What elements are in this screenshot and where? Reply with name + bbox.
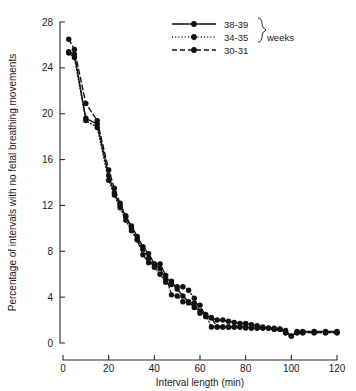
data-point bbox=[220, 324, 225, 329]
series-line-30-31 bbox=[69, 39, 337, 336]
data-point bbox=[226, 324, 231, 329]
data-point bbox=[209, 315, 214, 320]
data-point bbox=[83, 101, 88, 106]
data-point bbox=[106, 167, 111, 172]
data-point bbox=[180, 284, 185, 289]
x-tick-label-120: 120 bbox=[329, 363, 346, 374]
series-line-34-35 bbox=[69, 53, 337, 336]
line-chart: 0481216202428Percentage of intervals wit… bbox=[0, 0, 356, 391]
legend-label-30-31: 30-31 bbox=[224, 45, 248, 56]
data-point bbox=[117, 200, 122, 205]
data-point bbox=[146, 260, 151, 265]
data-point bbox=[66, 37, 71, 42]
data-point bbox=[192, 296, 197, 301]
data-point bbox=[169, 292, 174, 297]
data-point bbox=[123, 213, 128, 218]
chart-figure: 0481216202428Percentage of intervals wit… bbox=[0, 0, 356, 391]
data-point bbox=[260, 325, 265, 330]
data-point bbox=[277, 327, 282, 332]
data-point bbox=[174, 293, 179, 298]
data-point bbox=[152, 261, 157, 266]
data-point bbox=[323, 330, 328, 335]
data-point bbox=[300, 330, 305, 335]
data-point bbox=[180, 299, 185, 304]
data-point bbox=[135, 237, 140, 242]
data-point bbox=[249, 325, 254, 330]
legend-label-38-39: 38-39 bbox=[224, 19, 248, 30]
data-point bbox=[334, 330, 339, 335]
data-point bbox=[197, 310, 202, 315]
data-point bbox=[180, 293, 185, 298]
x-tick-label-20: 20 bbox=[103, 363, 115, 374]
data-point bbox=[254, 325, 259, 330]
y-axis-line bbox=[60, 22, 65, 343]
y-tick-label-20: 20 bbox=[42, 108, 54, 119]
data-point bbox=[140, 252, 145, 257]
series-line-38-39 bbox=[69, 52, 337, 336]
data-point bbox=[186, 288, 191, 293]
data-point bbox=[95, 118, 100, 123]
data-point bbox=[243, 324, 248, 329]
data-point bbox=[289, 333, 294, 338]
data-point bbox=[294, 330, 299, 335]
y-tick-label-8: 8 bbox=[47, 246, 53, 257]
data-point bbox=[214, 324, 219, 329]
data-point bbox=[129, 226, 134, 231]
series-30-31 bbox=[66, 37, 340, 339]
y-tick-label-28: 28 bbox=[42, 17, 54, 28]
data-point bbox=[186, 300, 191, 305]
data-point bbox=[66, 50, 71, 55]
data-point bbox=[163, 273, 168, 278]
x-tick-label-100: 100 bbox=[283, 363, 300, 374]
data-point bbox=[266, 325, 271, 330]
legend-group-label: weeks bbox=[266, 32, 294, 43]
y-tick-label-24: 24 bbox=[42, 62, 54, 73]
data-point bbox=[112, 186, 117, 191]
y-axis-title: Percentage of intervals with no fetal br… bbox=[7, 54, 18, 311]
data-point bbox=[220, 317, 225, 322]
series-34-35 bbox=[66, 50, 340, 339]
legend-marker-38-39 bbox=[191, 21, 197, 27]
data-point bbox=[209, 324, 214, 329]
data-point bbox=[192, 300, 197, 305]
data-point bbox=[197, 302, 202, 307]
data-point bbox=[226, 319, 231, 324]
legend-marker-34-35 bbox=[191, 34, 197, 40]
data-point bbox=[311, 330, 316, 335]
legend-brace bbox=[258, 18, 266, 42]
x-tick-label-40: 40 bbox=[149, 363, 161, 374]
data-point bbox=[72, 47, 77, 52]
data-point bbox=[232, 320, 237, 325]
legend-label-34-35: 34-35 bbox=[224, 32, 248, 43]
y-tick-label-16: 16 bbox=[42, 154, 54, 165]
x-tick-label-60: 60 bbox=[194, 363, 206, 374]
legend-marker-30-31 bbox=[191, 47, 197, 53]
data-point bbox=[157, 261, 162, 266]
data-point bbox=[83, 118, 88, 123]
series-38-39 bbox=[66, 49, 340, 339]
data-point bbox=[106, 178, 111, 183]
data-point bbox=[272, 327, 277, 332]
x-tick-label-80: 80 bbox=[240, 363, 252, 374]
data-point bbox=[283, 330, 288, 335]
data-point bbox=[157, 272, 162, 277]
y-tick-label-4: 4 bbox=[47, 292, 53, 303]
x-tick-label-0: 0 bbox=[60, 363, 66, 374]
chart-legend: 38-3934-3530-31weeks bbox=[172, 18, 294, 56]
y-tick-label-12: 12 bbox=[42, 200, 54, 211]
x-axis-title: Interval length (min) bbox=[156, 377, 244, 388]
y-tick-label-0: 0 bbox=[47, 338, 53, 349]
data-point bbox=[214, 317, 219, 322]
data-point bbox=[232, 324, 237, 329]
data-point bbox=[174, 284, 179, 289]
data-point bbox=[237, 324, 242, 329]
data-point bbox=[203, 314, 208, 319]
